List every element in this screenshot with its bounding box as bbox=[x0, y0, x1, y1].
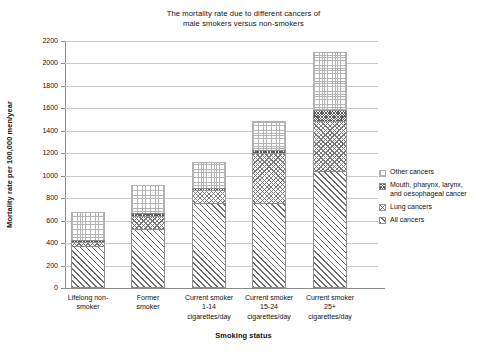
y-axis-tick bbox=[61, 198, 65, 199]
chart-title-line-1: The mortality rate due to different canc… bbox=[0, 9, 487, 19]
bar-segment-all[interactable] bbox=[192, 203, 226, 288]
chart-container: The mortality rate due to different canc… bbox=[0, 0, 487, 359]
bar-segment-all[interactable] bbox=[131, 229, 165, 289]
chart-title-line-2: male smokers versus non-smokers bbox=[0, 19, 487, 29]
y-axis-tick-label: 800 bbox=[46, 194, 58, 201]
y-axis-tick bbox=[61, 243, 65, 244]
y-axis-tick-label: 2000 bbox=[42, 59, 58, 66]
y-axis-line bbox=[65, 41, 66, 288]
x-axis-line bbox=[65, 288, 385, 289]
y-axis-tick-label: 1800 bbox=[42, 81, 58, 88]
y-axis-tick bbox=[61, 41, 65, 42]
legend-swatch-lung bbox=[379, 204, 386, 211]
y-axis-tick-label: 200 bbox=[46, 261, 58, 268]
y-axis-tick bbox=[61, 153, 65, 154]
y-axis-tick-label: 1000 bbox=[42, 171, 58, 178]
y-axis-tick-label: 1600 bbox=[42, 104, 58, 111]
legend-swatch-other bbox=[379, 170, 386, 177]
x-axis-category-line: 25+ bbox=[291, 302, 369, 311]
legend-item[interactable]: Other cancers bbox=[379, 168, 485, 177]
legend-label-line: Mouth, pharynx, larynx, bbox=[390, 181, 485, 190]
legend-label: Lung cancers bbox=[390, 203, 485, 212]
bar-segment-all[interactable] bbox=[313, 171, 347, 288]
legend-swatch-all bbox=[379, 217, 386, 224]
legend-label-line: All cancers bbox=[390, 216, 485, 225]
legend-label-line: and oesophageal cancer bbox=[390, 190, 485, 199]
y-axis-tick-label: 2200 bbox=[42, 37, 58, 44]
legend-label: Other cancers bbox=[390, 168, 485, 177]
y-axis-tick bbox=[61, 266, 65, 267]
legend-item[interactable]: Mouth, pharynx, larynx,and oesophageal c… bbox=[379, 181, 485, 198]
x-axis-category-line: cigarettes/day bbox=[291, 312, 369, 321]
bar-segment-all[interactable] bbox=[71, 246, 105, 288]
x-axis-title: Smoking status bbox=[0, 331, 487, 340]
legend-item[interactable]: All cancers bbox=[379, 216, 485, 225]
plot-area: 0200400600800100012001400160018002000220… bbox=[65, 41, 378, 288]
y-axis-tick bbox=[61, 86, 65, 87]
legend-label: Mouth, pharynx, larynx,and oesophageal c… bbox=[390, 181, 485, 198]
x-axis-category-line: Current smoker bbox=[291, 293, 369, 302]
y-axis-tick-label: 1200 bbox=[42, 149, 58, 156]
legend-swatch-mouth bbox=[379, 183, 386, 190]
legend-label-line: Other cancers bbox=[390, 168, 485, 177]
legend-label-line: Lung cancers bbox=[390, 203, 485, 212]
y-axis-tick bbox=[61, 288, 65, 289]
legend-label: All cancers bbox=[390, 216, 485, 225]
y-axis-title-text: Mortality rate per 100,000 men/year bbox=[5, 101, 14, 228]
y-axis-tick bbox=[61, 176, 65, 177]
gridline bbox=[65, 41, 378, 42]
y-axis-tick bbox=[61, 131, 65, 132]
y-axis-tick-label: 400 bbox=[46, 239, 58, 246]
y-axis-title: Mortality rate per 100,000 men/year bbox=[3, 41, 15, 288]
bar-segment-all[interactable] bbox=[252, 203, 286, 288]
chart-legend: Other cancersMouth, pharynx, larynx,and … bbox=[379, 168, 485, 229]
y-axis-tick-label: 600 bbox=[46, 216, 58, 223]
chart-title: The mortality rate due to different canc… bbox=[0, 9, 487, 28]
legend-item[interactable]: Lung cancers bbox=[379, 203, 485, 212]
y-axis-tick bbox=[61, 221, 65, 222]
y-axis-tick bbox=[61, 63, 65, 64]
y-axis-tick-label: 0 bbox=[54, 284, 58, 291]
x-axis-category-label: Current smoker25+cigarettes/day bbox=[291, 293, 369, 321]
y-axis-tick bbox=[61, 108, 65, 109]
y-axis-tick-label: 1400 bbox=[42, 126, 58, 133]
